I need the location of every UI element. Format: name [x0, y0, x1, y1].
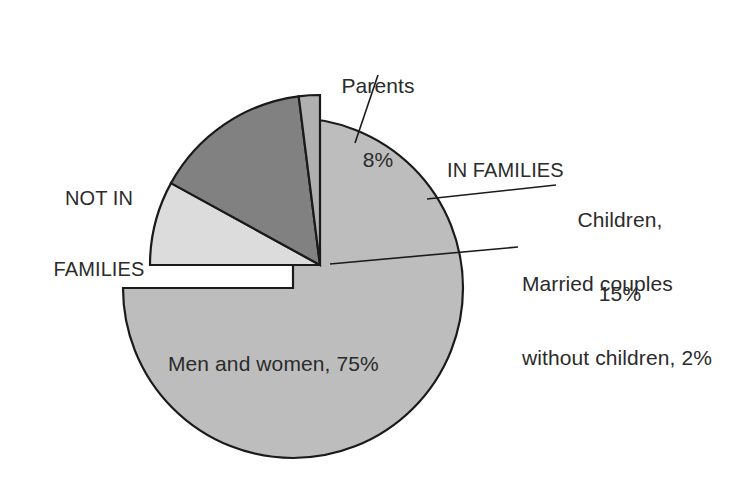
label-in-families-text: IN FAMILIES — [447, 159, 564, 183]
label-not-in-families-line2: FAMILIES — [24, 258, 174, 282]
label-not-in-families: NOT IN FAMILIES — [24, 140, 174, 329]
label-parents: Parents 8% — [318, 24, 438, 222]
label-in-families: IN FAMILIES — [447, 112, 564, 230]
label-not-in-families-line1: NOT IN — [24, 187, 174, 211]
label-parents-line1: Parents — [318, 74, 438, 99]
pie-group-in-families — [150, 95, 320, 265]
label-men-and-women: Men and women, 75% — [168, 302, 379, 426]
label-married-couples-line1: Married couples — [522, 272, 712, 297]
label-men-and-women-text: Men and women, 75% — [168, 352, 379, 377]
label-married-couples-line2: without children, 2% — [522, 346, 712, 371]
pie-chart-figure: Parents 8% IN FAMILIES Children, 15% Mar… — [0, 0, 735, 490]
label-parents-line2: 8% — [318, 148, 438, 173]
label-married-couples: Married couples without children, 2% — [522, 222, 712, 420]
